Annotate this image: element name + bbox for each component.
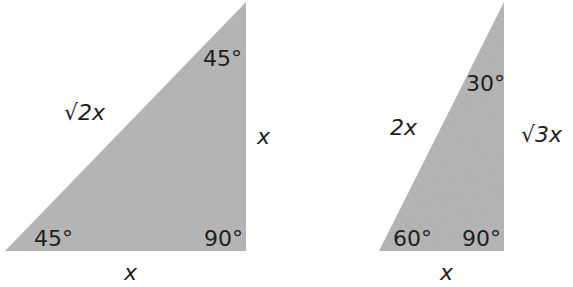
- triangle-45-45-90: [5, 2, 246, 251]
- side-hypotenuse-right-triangle: 2x: [390, 117, 417, 139]
- side-base-right-triangle: x: [440, 262, 453, 284]
- side-base-left-triangle: x: [124, 262, 137, 284]
- angle-right-left-triangle: 90°: [204, 228, 243, 250]
- angle-top-left-triangle: 45°: [203, 48, 242, 70]
- angle-bottom-left-right-triangle: 60°: [393, 228, 432, 250]
- side-hypotenuse-left-triangle: √2x: [64, 102, 105, 124]
- side-vertical-right-triangle: √3x: [521, 124, 562, 146]
- side-vertical-left-triangle: x: [257, 126, 270, 148]
- angle-right-right-triangle: 90°: [462, 228, 501, 250]
- angle-top-right-triangle: 30°: [466, 73, 505, 95]
- angle-bottom-left-left-triangle: 45°: [34, 228, 73, 250]
